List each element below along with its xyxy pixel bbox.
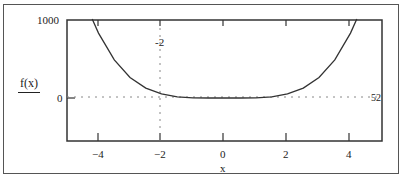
top-ticks — [98, 20, 349, 26]
x-axis-ticks — [98, 133, 349, 141]
x-tick-label: 4 — [346, 149, 352, 160]
x-axis-label: x — [220, 163, 226, 174]
marker-x-label: -2 — [155, 37, 164, 48]
y-axis-label-underline — [18, 92, 40, 93]
x-tick-label: 2 — [283, 149, 289, 160]
plot-canvas — [0, 0, 403, 179]
x-tick-label: −4 — [92, 149, 104, 160]
x-tick-label: −2 — [154, 149, 166, 160]
y-tick-0: 0 — [57, 93, 63, 104]
function-curve — [92, 19, 357, 98]
plot-box — [67, 20, 382, 141]
x-tick-label: 0 — [220, 149, 226, 160]
y-axis-label: f(x) — [20, 76, 38, 91]
y-tick-1000: 1000 — [37, 15, 59, 26]
marker-y-label: 52 — [371, 93, 381, 103]
